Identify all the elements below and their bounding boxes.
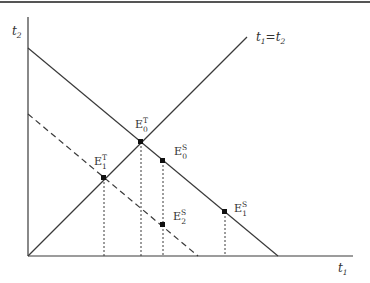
point-E0T — [138, 139, 143, 144]
label-E0T: ET0 — [135, 116, 148, 134]
point-E0S — [160, 158, 165, 163]
y-axis-label: t2 — [12, 24, 22, 40]
label-E0S: ES0 — [174, 143, 187, 161]
diagonal-label: t1=t2 — [256, 30, 286, 46]
point-E2S — [160, 222, 165, 227]
diagram-figure: t2 t1 t1=t2 ET0 ET1 ES0 ES2 ES1 — [0, 0, 370, 283]
x-axis-label: t1 — [338, 261, 348, 277]
point-E1T — [101, 175, 106, 180]
budget-line-solid — [28, 48, 278, 256]
diagonal-line — [28, 37, 247, 256]
point-E1S — [222, 209, 227, 214]
label-E1T: ET1 — [94, 153, 107, 171]
diagram-canvas: t2 t1 t1=t2 ET0 ET1 ES0 ES2 ES1 — [0, 0, 370, 283]
budget-line-dashed — [28, 114, 198, 256]
label-E1S: ES1 — [234, 200, 247, 218]
label-E2S: ES2 — [173, 208, 186, 226]
